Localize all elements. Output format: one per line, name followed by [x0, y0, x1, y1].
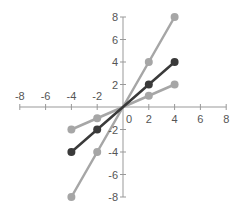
x-tick-label: 8	[223, 113, 229, 125]
data-point	[67, 193, 75, 201]
data-point	[171, 13, 179, 21]
x-tick-label: -4	[67, 90, 77, 102]
data-point	[67, 148, 75, 156]
y-tick-label: -4	[108, 146, 118, 158]
data-point	[171, 58, 179, 66]
y-tick-label: -6	[108, 169, 118, 181]
y-tick-label: 6	[112, 34, 118, 46]
data-point	[93, 148, 101, 156]
data-point	[145, 92, 153, 100]
line-chart: -8-6-4-22468-8-6-4-224680	[0, 0, 243, 218]
data-point	[171, 81, 179, 89]
x-tick-label: 2	[146, 113, 152, 125]
y-tick-label: 8	[112, 11, 118, 23]
data-point	[145, 58, 153, 66]
data-point	[145, 81, 153, 89]
x-tick-label: -8	[15, 90, 25, 102]
y-tick-label: 4	[112, 56, 118, 68]
x-tick-label: 4	[172, 113, 178, 125]
data-point	[93, 126, 101, 134]
y-tick-label: 2	[112, 79, 118, 91]
x-tick-label: -2	[92, 90, 102, 102]
origin-label: 0	[126, 113, 132, 125]
y-tick-label: -2	[108, 124, 118, 136]
data-point	[93, 114, 101, 122]
x-tick-label: -6	[41, 90, 51, 102]
y-tick-label: -8	[108, 191, 118, 203]
data-point	[67, 126, 75, 134]
x-tick-label: 6	[197, 113, 203, 125]
